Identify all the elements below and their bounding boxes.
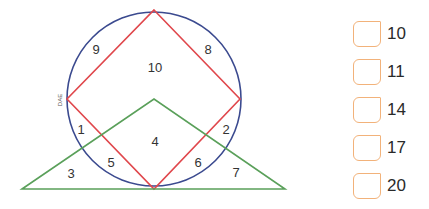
option-label: 10 [387, 24, 406, 44]
checkbox[interactable] [353, 59, 381, 85]
region-label-4: 4 [151, 134, 158, 149]
side-label: DAE [57, 94, 63, 106]
option-10[interactable]: 10 [353, 20, 406, 48]
region-label-8: 8 [204, 42, 211, 57]
option-11[interactable]: 11 [353, 58, 405, 86]
region-label-5: 5 [107, 155, 114, 170]
checkbox[interactable] [353, 173, 381, 199]
option-20[interactable]: 20 [353, 172, 406, 200]
option-14[interactable]: 14 [353, 96, 406, 124]
region-label-3: 3 [67, 166, 74, 181]
region-label-10: 10 [148, 60, 162, 75]
option-label: 17 [387, 138, 406, 158]
option-17[interactable]: 17 [353, 134, 406, 162]
region-label-1: 1 [77, 122, 84, 137]
region-label-6: 6 [194, 155, 201, 170]
option-label: 11 [387, 62, 405, 82]
option-label: 14 [387, 100, 406, 120]
option-label: 20 [387, 176, 406, 196]
checkbox[interactable] [353, 135, 381, 161]
region-label-7: 7 [232, 165, 239, 180]
checkbox[interactable] [353, 97, 381, 123]
region-label-2: 2 [222, 122, 229, 137]
geometry-diagram: DAE 12345678910 [0, 0, 300, 209]
checkbox[interactable] [353, 21, 381, 47]
region-label-9: 9 [92, 42, 99, 57]
